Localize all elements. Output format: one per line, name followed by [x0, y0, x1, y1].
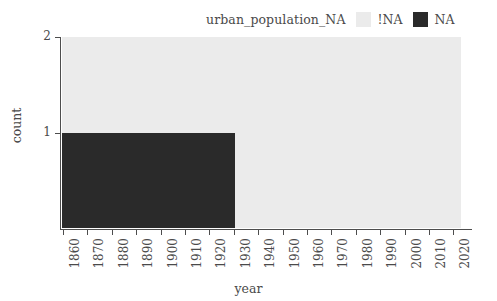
x-axis-title: year — [0, 281, 497, 296]
legend: urban_population_NA !NA NA — [206, 9, 455, 29]
x-tick-label: 1870 — [92, 238, 106, 269]
y-tick-label: 1 — [29, 125, 51, 139]
legend-label-na: NA — [435, 12, 455, 27]
x-tick-label: 1960 — [312, 238, 326, 269]
x-axis-line — [60, 229, 472, 230]
x-tick-label: 1880 — [117, 238, 131, 269]
legend-entry-na[interactable]: NA — [413, 12, 455, 27]
y-axis-line — [60, 37, 61, 229]
x-tick-label: 1900 — [166, 238, 180, 269]
x-tick-mark — [136, 230, 137, 235]
x-tick-label: 1970 — [336, 238, 350, 269]
y-tick-mark — [55, 37, 60, 38]
y-axis-title: count — [9, 96, 24, 156]
x-tick-mark — [63, 230, 64, 235]
x-tick-mark — [234, 230, 235, 235]
y-tick-label: 2 — [29, 29, 51, 43]
x-tick-mark — [429, 230, 430, 235]
x-tick-label: 1930 — [239, 238, 253, 269]
x-tick-mark — [112, 230, 113, 235]
x-tick-mark — [209, 230, 210, 235]
x-tick-mark — [307, 230, 308, 235]
x-tick-mark — [185, 230, 186, 235]
x-tick-mark — [258, 230, 259, 235]
x-tick-label: 1920 — [214, 238, 228, 269]
x-tick-label: 2010 — [434, 238, 448, 269]
x-tick-label: 1890 — [141, 238, 155, 269]
bar-segment-na — [62, 133, 235, 228]
x-tick-label: 1950 — [288, 238, 302, 269]
y-tick-mark — [55, 133, 60, 134]
legend-swatch-not-na — [356, 12, 371, 27]
x-tick-label: 1860 — [68, 238, 82, 269]
legend-label-not-na: !NA — [378, 12, 403, 27]
x-tick-mark — [283, 230, 284, 235]
x-tick-mark — [380, 230, 381, 235]
x-tick-label: 1940 — [263, 238, 277, 269]
x-tick-label: 1910 — [190, 238, 204, 269]
legend-title: urban_population_NA — [206, 12, 346, 27]
x-tick-mark — [87, 230, 88, 235]
x-tick-mark — [161, 230, 162, 235]
x-tick-mark — [405, 230, 406, 235]
x-tick-mark — [453, 230, 454, 235]
x-tick-label: 1990 — [385, 238, 399, 269]
x-tick-label: 2000 — [410, 238, 424, 269]
plot-panel — [62, 37, 461, 228]
x-tick-mark — [331, 230, 332, 235]
x-tick-mark — [356, 230, 357, 235]
legend-entry-not-na[interactable]: !NA — [356, 12, 403, 27]
legend-swatch-na — [413, 12, 428, 27]
x-tick-label: 1980 — [361, 238, 375, 269]
x-tick-label: 2020 — [458, 238, 472, 269]
